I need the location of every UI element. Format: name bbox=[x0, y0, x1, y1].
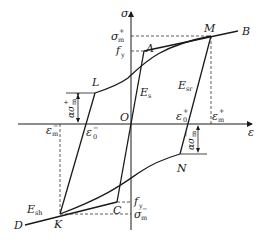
svg-text:0: 0 bbox=[183, 116, 187, 124]
svg-text:+: + bbox=[183, 107, 188, 115]
label-fy-top: f y bbox=[115, 44, 125, 59]
label-epsilon-m-plus: ε + m bbox=[212, 107, 224, 124]
point-M: M bbox=[203, 22, 216, 35]
label-alpha-sigma-m-plus: ασ + m bbox=[62, 99, 78, 118]
svg-text:+: + bbox=[219, 107, 224, 115]
svg-text:s: s bbox=[148, 92, 151, 100]
svg-text:ασ: ασ bbox=[66, 105, 76, 118]
label-Es: E s bbox=[139, 86, 151, 100]
point-C: C bbox=[113, 204, 122, 217]
svg-text:+: + bbox=[119, 27, 124, 35]
label-epsilon-0-minus: ε − 0 bbox=[86, 124, 98, 141]
svg-text:−: − bbox=[142, 205, 147, 213]
hysteresis-diagram: σ ε O A B M L N C K D σ + m f y f y σ − … bbox=[0, 0, 267, 246]
svg-text:m: m bbox=[190, 131, 198, 137]
svg-text:E: E bbox=[26, 203, 35, 216]
svg-text:m: m bbox=[52, 130, 58, 138]
svg-text:m: m bbox=[218, 116, 224, 124]
point-L: L bbox=[91, 76, 99, 89]
svg-text:ε: ε bbox=[86, 126, 92, 139]
svg-text:E: E bbox=[177, 79, 186, 92]
svg-text:0: 0 bbox=[93, 133, 97, 141]
sigma-axis-label: σ bbox=[121, 7, 129, 20]
svg-text:−: − bbox=[182, 132, 190, 137]
svg-text:E: E bbox=[139, 86, 148, 99]
point-A: A bbox=[145, 42, 154, 55]
svg-text:m: m bbox=[141, 214, 147, 222]
origin-label: O bbox=[120, 111, 129, 124]
point-B: B bbox=[241, 25, 250, 38]
label-alpha-sigma-m-minus: ασ − m bbox=[182, 131, 198, 150]
point-N: N bbox=[176, 162, 187, 175]
svg-text:+: + bbox=[62, 100, 70, 105]
label-Esh: E sh bbox=[26, 203, 43, 217]
svg-text:−: − bbox=[53, 122, 58, 130]
point-K: K bbox=[53, 218, 63, 231]
label-epsilon-m-minus: ε − m bbox=[46, 122, 58, 138]
label-sigma-m-minus: σ − m bbox=[134, 205, 147, 222]
svg-text:y: y bbox=[120, 51, 125, 59]
svg-text:m: m bbox=[70, 99, 78, 105]
svg-text:−: − bbox=[93, 124, 98, 132]
svg-text:sr: sr bbox=[186, 85, 193, 93]
epsilon-axis-label: ε bbox=[248, 126, 254, 139]
svg-text:m: m bbox=[118, 36, 124, 44]
svg-text:ε: ε bbox=[176, 110, 182, 123]
label-Esr: E sr bbox=[177, 79, 193, 93]
svg-text:ασ: ασ bbox=[186, 137, 196, 150]
point-D: D bbox=[13, 219, 23, 232]
svg-text:sh: sh bbox=[35, 209, 43, 217]
label-epsilon-0-plus: ε + 0 bbox=[176, 107, 188, 124]
label-sigma-m-plus: σ + m bbox=[111, 27, 124, 44]
